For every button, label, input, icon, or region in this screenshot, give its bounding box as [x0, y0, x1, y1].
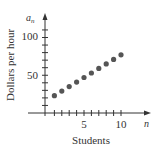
- y-tick-label-100: 100: [22, 30, 39, 42]
- x-tick-label-10: 10: [116, 118, 128, 130]
- chart: an n 100 50 5 10 Students Dollars per ho…: [0, 0, 157, 149]
- x-axis: [28, 111, 151, 116]
- y-axis: [43, 13, 48, 116]
- data-point: [74, 79, 79, 84]
- x-var-label: n: [144, 118, 149, 129]
- data-point: [81, 75, 86, 80]
- data-point: [96, 66, 101, 71]
- x-axis-arrow-icon: [144, 111, 151, 116]
- data-point: [118, 52, 123, 57]
- data-point: [52, 93, 57, 98]
- data-point: [59, 89, 64, 94]
- y-var-label: an: [26, 12, 35, 25]
- y-tick-label-50: 50: [27, 69, 39, 81]
- x-axis-title: Students: [72, 134, 110, 146]
- data-point: [104, 61, 109, 66]
- data-point: [67, 84, 72, 89]
- x-tick-label-5: 5: [81, 118, 87, 130]
- data-point: [111, 57, 116, 62]
- y-axis-arrow-icon: [43, 13, 48, 20]
- data-points: [52, 52, 124, 98]
- data-point: [89, 70, 94, 75]
- y-axis-title: Dollars per hour: [4, 29, 16, 101]
